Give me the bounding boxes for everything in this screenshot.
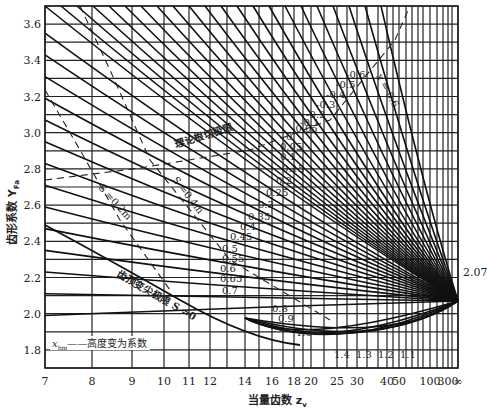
y-tick: 2.2 — [24, 272, 42, 285]
curve-label: 0.1 — [280, 151, 296, 162]
x-tick: 11 — [182, 375, 196, 388]
x-tick: 10 — [157, 375, 171, 388]
x-tick: 30 — [350, 375, 364, 388]
curve-label: 0.3 — [258, 199, 274, 210]
curve-label: 0.15 — [282, 163, 304, 174]
tooth-form-factor-chart: 7891011121416182025304050100300∞1.82.02.… — [0, 0, 487, 411]
y-tick: 1.8 — [24, 344, 42, 357]
curve-label: 1.4 — [334, 349, 350, 360]
curve-label: 0.45 — [230, 231, 252, 242]
sa-02-label: S =0.2m — [97, 182, 135, 222]
y-tick: 2.4 — [24, 235, 42, 248]
y-tick: 3.2 — [24, 91, 42, 104]
y-tick: 3.0 — [24, 127, 42, 140]
x-tick: 25 — [330, 375, 344, 388]
x-tick: 7 — [42, 375, 49, 388]
curve-label: 1.1 — [400, 349, 416, 360]
y-tick: 2.6 — [24, 199, 42, 212]
curves — [45, 6, 458, 345]
curve-label: 0.65 — [220, 273, 242, 284]
y-tick: 2.8 — [24, 163, 42, 176]
convergence-label: 2.07 — [463, 266, 487, 279]
x-tick: 20 — [304, 375, 318, 388]
x-tick: 50 — [392, 375, 406, 388]
curve-label: 1.2 — [378, 349, 394, 360]
legend: xhm——高度变为系数 — [52, 337, 147, 351]
x-axis-title: 当量齿数 zv — [248, 393, 307, 409]
y-tick: 3.6 — [24, 18, 42, 31]
curve-label: 0.25 — [266, 187, 288, 198]
curve-label: 0.9 — [278, 313, 294, 324]
y-axis-title: 齿形系数 YFa — [5, 180, 21, 245]
curve-label: -0.05 — [292, 123, 318, 134]
curve-label: 1.3 — [356, 349, 372, 360]
y-tick: 3.4 — [24, 54, 42, 67]
curve-label: 0.7 — [222, 285, 238, 296]
x-tick: 9 — [129, 375, 136, 388]
y-tick: 2.0 — [24, 308, 42, 321]
x-tick: 18 — [287, 375, 301, 388]
curve-label: 1.0 — [296, 327, 312, 338]
x-tick: 12 — [203, 375, 217, 388]
x-tick: 8 — [89, 375, 96, 388]
curve-label: 0.2 — [276, 175, 292, 186]
x-tick: 14 — [238, 375, 252, 388]
x-tick: ∞ — [453, 375, 462, 388]
x-tick: 16 — [265, 375, 279, 388]
